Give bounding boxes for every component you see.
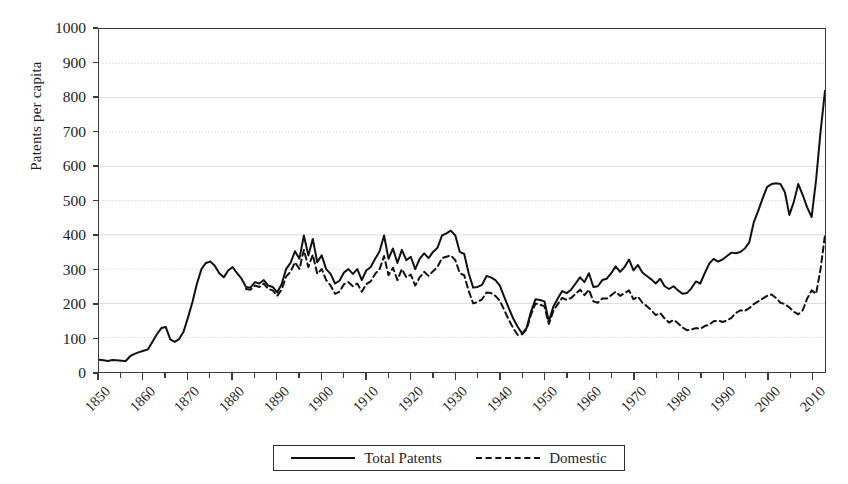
y-axis-tick-label: 500 bbox=[22, 192, 86, 210]
x-axis-major-tick bbox=[767, 373, 768, 380]
x-axis-minor-tick bbox=[700, 373, 701, 378]
y-axis-tick-label: 200 bbox=[22, 295, 86, 313]
x-axis-major-tick bbox=[97, 373, 98, 380]
x-axis-minor-tick bbox=[209, 373, 210, 378]
legend-label-domestic: Domestic bbox=[549, 450, 607, 467]
y-axis-tick-label: 800 bbox=[22, 88, 86, 106]
x-axis-minor-tick bbox=[164, 373, 165, 378]
x-axis-minor-tick bbox=[298, 373, 299, 378]
x-axis-major-tick bbox=[321, 373, 322, 380]
x-axis-minor-tick bbox=[120, 373, 121, 378]
x-axis-minor-tick bbox=[477, 373, 478, 378]
x-axis-minor-tick bbox=[343, 373, 344, 378]
x-axis-minor-tick bbox=[611, 373, 612, 378]
x-axis-minor-tick bbox=[656, 373, 657, 378]
y-axis-tick-label: 400 bbox=[22, 226, 86, 244]
series-domestic bbox=[246, 235, 825, 335]
legend-item-total-patents: Total Patents bbox=[291, 450, 442, 467]
x-axis-minor-tick bbox=[432, 373, 433, 378]
x-axis-major-tick bbox=[187, 373, 188, 380]
x-axis-major-tick bbox=[142, 373, 143, 380]
chart-legend: Total Patents Domestic bbox=[273, 445, 625, 471]
x-axis-minor-tick bbox=[522, 373, 523, 378]
x-axis-minor-tick bbox=[388, 373, 389, 378]
x-axis-major-tick bbox=[678, 373, 679, 380]
y-axis-tick-label: 1000 bbox=[22, 19, 86, 37]
y-axis-tick-label: 0 bbox=[22, 364, 86, 382]
legend-item-domestic: Domestic bbox=[476, 450, 607, 467]
x-axis-major-tick bbox=[499, 373, 500, 380]
x-axis-major-tick bbox=[455, 373, 456, 380]
x-axis-major-tick bbox=[633, 373, 634, 380]
dashed-line-swatch-icon bbox=[476, 457, 540, 459]
x-axis-minor-tick bbox=[790, 373, 791, 378]
caption-sliver bbox=[0, 474, 848, 484]
x-axis-minor-tick bbox=[566, 373, 567, 378]
x-axis-major-tick bbox=[276, 373, 277, 380]
x-axis-major-tick bbox=[812, 373, 813, 380]
patents-per-capita-figure: Patents per capita 010020030040050060070… bbox=[0, 0, 848, 484]
y-axis-tick-label: 300 bbox=[22, 261, 86, 279]
y-axis-tick-label: 700 bbox=[22, 123, 86, 141]
plot-area bbox=[98, 28, 826, 373]
y-axis-tick-label: 100 bbox=[22, 330, 86, 348]
x-axis-major-tick bbox=[723, 373, 724, 380]
data-series-layer bbox=[99, 29, 825, 372]
x-axis-major-tick bbox=[544, 373, 545, 380]
x-axis-minor-tick bbox=[745, 373, 746, 378]
x-axis-major-tick bbox=[410, 373, 411, 380]
x-axis-major-tick bbox=[589, 373, 590, 380]
y-axis-tick-label: 600 bbox=[22, 157, 86, 175]
y-axis-tick-label: 900 bbox=[22, 54, 86, 72]
solid-line-swatch-icon bbox=[291, 457, 355, 459]
x-axis-major-tick bbox=[365, 373, 366, 380]
x-axis-major-tick bbox=[231, 373, 232, 380]
legend-label-total-patents: Total Patents bbox=[364, 450, 442, 467]
x-axis-minor-tick bbox=[254, 373, 255, 378]
